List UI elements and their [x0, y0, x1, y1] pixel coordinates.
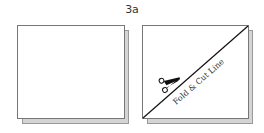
- fold-cut-label: Fold & Cut Line: [171, 57, 226, 107]
- cut-diagram: Fold & Cut Line: [0, 0, 264, 133]
- scissors-icon: [158, 72, 182, 93]
- fold-cut-line: [143, 26, 248, 118]
